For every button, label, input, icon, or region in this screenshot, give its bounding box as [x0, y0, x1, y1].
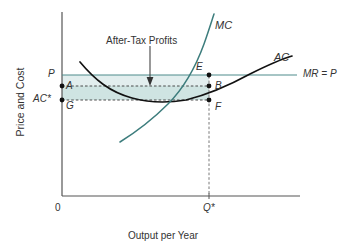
point-label-G: G	[66, 101, 74, 111]
point-label-A: A	[66, 81, 73, 91]
after-tax-profits-annotation: After-Tax Profits	[106, 36, 177, 46]
curve-label-ac: AC	[274, 52, 289, 63]
curve-label-mr-equals-p: MR = P	[303, 69, 337, 79]
x-axis-label: Output per Year	[128, 231, 198, 241]
point-label-B: B	[215, 81, 222, 91]
point-marker-B	[207, 84, 212, 89]
point-label-E: E	[196, 62, 203, 72]
price-label-p: P	[48, 69, 55, 79]
after-tax-profit-shading	[62, 86, 209, 100]
x-tick-label-qstar: Q*	[203, 203, 215, 213]
y-axis-label: Price and Cost	[14, 60, 26, 144]
point-marker-E	[207, 73, 212, 78]
figure-canvas: Price and Cost Output per Year 0 Q* P AC…	[0, 0, 349, 244]
average-cost-label: AC*	[33, 94, 51, 104]
point-label-F: F	[215, 102, 221, 112]
point-marker-F	[207, 98, 212, 103]
origin-label: 0	[55, 203, 61, 213]
point-marker-A	[60, 84, 65, 89]
curve-label-mc: MC	[215, 20, 232, 31]
point-marker-G	[60, 98, 65, 103]
